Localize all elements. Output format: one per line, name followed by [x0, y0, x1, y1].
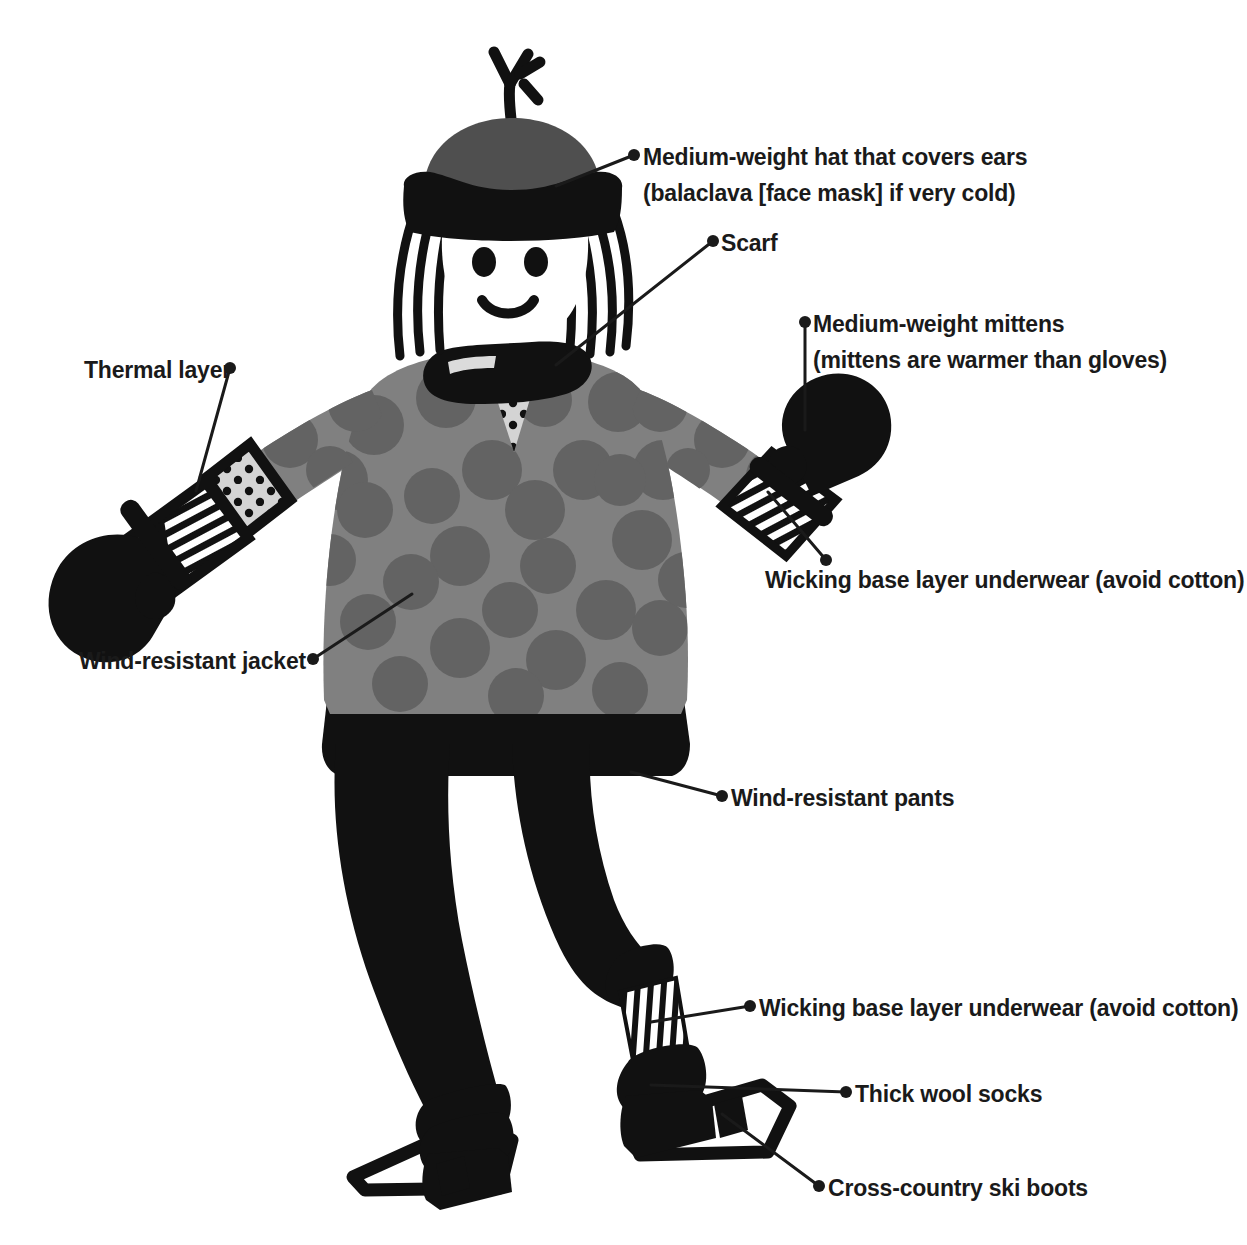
label-cross-country-ski-boots: Cross-country ski boots	[828, 1170, 1088, 1206]
label-wicking-base-layer-arm-leader	[768, 492, 826, 560]
label-cross-country-ski-boots-dot	[813, 1180, 825, 1192]
label-hat-leader	[556, 155, 634, 186]
label-socks-line1: Thick wool socks	[855, 1081, 1042, 1107]
label-mittens: Medium-weight mittens (mittens are warme…	[813, 306, 1167, 378]
label-wind-resistant-pants-dot	[716, 790, 728, 802]
label-thermal-layer-line1: Thermal layer	[84, 357, 231, 383]
label-wicking-base-layer-arm: Wicking base layer underwear (avoid cott…	[765, 562, 1244, 598]
label-thermal-layer: Thermal layer	[84, 352, 231, 388]
label-jacket-line1: Wind-resistant jacket	[79, 648, 306, 674]
label-hat-dot	[628, 149, 640, 161]
leader-lines	[0, 0, 1247, 1245]
label-wind-resistant-jacket-leader	[313, 594, 412, 659]
label-hat-line1: Medium-weight hat that covers ears	[643, 144, 1027, 170]
label-wind-resistant-pants-leader	[631, 772, 722, 796]
label-thick-wool-socks-dot	[840, 1086, 852, 1098]
label-hat: Medium-weight hat that covers ears (bala…	[643, 139, 1027, 211]
diagram-canvas: Medium-weight hat that covers ears (bala…	[0, 0, 1247, 1245]
label-cross-country-ski-boots-leader	[722, 1114, 819, 1186]
label-wicking-base-layer-leg: Wicking base layer underwear (avoid cott…	[759, 990, 1238, 1026]
label-wind-resistant-jacket: Wind-resistant jacket	[79, 643, 306, 679]
label-mittens-line2: (mittens are warmer than gloves)	[813, 342, 1167, 378]
label-wind-resistant-jacket-dot	[307, 653, 319, 665]
label-wicking-base-layer-leg-leader	[651, 1006, 750, 1022]
label-pants-line1: Wind-resistant pants	[731, 785, 954, 811]
label-thick-wool-socks: Thick wool socks	[855, 1076, 1042, 1112]
label-scarf-line1: Scarf	[721, 230, 778, 256]
label-wicking-base-layer-leg-dot	[744, 1000, 756, 1012]
label-mittens-dot	[799, 316, 811, 328]
label-boots-line1: Cross-country ski boots	[828, 1175, 1088, 1201]
label-scarf-leader	[556, 241, 713, 365]
label-hat-line2: (balaclava [face mask] if very cold)	[643, 175, 1027, 211]
label-scarf: Scarf	[721, 225, 778, 261]
label-wicking-leg-line1: Wicking base layer underwear (avoid cott…	[759, 995, 1238, 1021]
label-wind-resistant-pants: Wind-resistant pants	[731, 780, 954, 816]
label-scarf-dot	[707, 235, 719, 247]
label-thick-wool-socks-leader	[651, 1085, 846, 1092]
label-mittens-line1: Medium-weight mittens	[813, 311, 1064, 337]
label-wicking-arm-line1: Wicking base layer underwear (avoid cott…	[765, 567, 1244, 593]
